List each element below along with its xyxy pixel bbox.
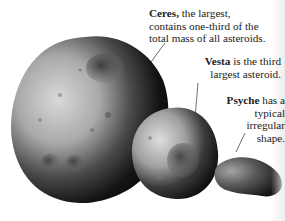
ceres-name: Ceres, [149,7,179,19]
ceres-label: Ceres, the largest, contains one-third o… [149,7,285,45]
vesta-label: Vesta is the third largest asteroid. [187,55,281,80]
psyche-name: Psyche [227,94,260,106]
vesta-asteroid [132,107,218,199]
psyche-label: Psyche has a typical irregular shape. [212,94,285,144]
vesta-name: Vesta [205,55,231,67]
ceres-pointer-line [151,43,165,62]
